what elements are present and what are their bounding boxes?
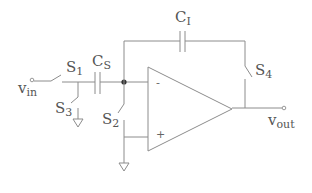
switch-s1 bbox=[34, 75, 95, 82]
capacitor-ci bbox=[180, 31, 185, 52]
opamp-noninverting-sign: + bbox=[156, 129, 165, 140]
label-vout: vout bbox=[268, 113, 295, 130]
label-cs-sub: S bbox=[103, 59, 111, 72]
capacitor-cs bbox=[95, 72, 148, 94]
label-s2-main: S bbox=[102, 110, 112, 128]
label-s4-sub: 4 bbox=[265, 68, 272, 81]
label-s1-main: S bbox=[66, 58, 76, 76]
label-vin-sub: in bbox=[26, 86, 37, 99]
label-vin: vin bbox=[18, 81, 37, 98]
output-wire bbox=[232, 106, 286, 110]
label-s2: S2 bbox=[102, 112, 119, 129]
ground-icon-s3 bbox=[73, 119, 83, 127]
label-s1-sub: 1 bbox=[76, 65, 83, 78]
label-s2-sub: 2 bbox=[112, 117, 119, 130]
label-s4: S4 bbox=[255, 63, 272, 80]
opamp-inverting-sign: - bbox=[156, 77, 160, 88]
label-s3: S3 bbox=[55, 101, 72, 118]
label-ci-main: C bbox=[175, 8, 186, 26]
ground-icon-s2 bbox=[119, 163, 129, 171]
circuit-diagram bbox=[0, 0, 312, 193]
label-cs: CS bbox=[92, 54, 111, 71]
label-vout-sub: out bbox=[276, 118, 294, 131]
label-s4-main: S bbox=[255, 61, 265, 79]
label-s3-sub: 3 bbox=[65, 106, 72, 119]
label-s1: S1 bbox=[66, 60, 83, 77]
switch-s2 bbox=[118, 82, 148, 163]
label-s3-main: S bbox=[55, 99, 65, 117]
label-ci: CI bbox=[175, 10, 191, 27]
label-cs-main: C bbox=[92, 52, 103, 70]
switch-s4 bbox=[245, 41, 252, 108]
label-ci-sub: I bbox=[186, 15, 190, 28]
